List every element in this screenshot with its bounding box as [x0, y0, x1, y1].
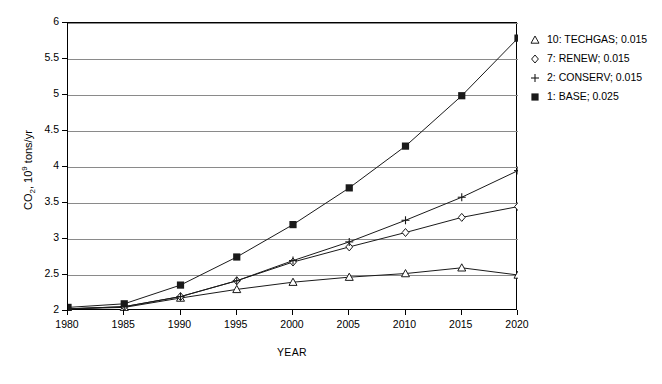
- triangle-open-icon: [528, 30, 542, 49]
- series-techgas: [68, 264, 518, 311]
- legend-label: 2: CONSERV; 0.015: [547, 71, 642, 83]
- x-tick-label: 1995: [211, 318, 261, 330]
- data-point-plus: [514, 167, 518, 175]
- data-point-square-filled: [346, 184, 353, 191]
- y-axis-label: CO2, 109 tons/yr: [20, 130, 37, 210]
- x-tick-mark: [461, 310, 462, 315]
- x-tick-mark: [405, 310, 406, 315]
- x-tick-label: 1980: [42, 318, 92, 330]
- y-tick-label: 5.5: [21, 51, 59, 63]
- data-point-plus: [233, 277, 241, 285]
- y-tick-mark: [62, 94, 67, 95]
- y-tick-mark: [62, 130, 67, 131]
- data-point-diamond-open: [515, 203, 518, 211]
- y-tick-mark: [62, 238, 67, 239]
- y-tick-label: 3: [21, 231, 59, 243]
- x-tick-label: 2015: [436, 318, 486, 330]
- plot-area: [67, 22, 517, 310]
- data-point-plus: [458, 193, 466, 201]
- x-tick-label: 2000: [267, 318, 317, 330]
- data-point-square-filled: [177, 281, 184, 288]
- plus-icon: [528, 68, 542, 87]
- x-tick-mark: [123, 310, 124, 315]
- data-point-square-filled: [402, 143, 409, 150]
- x-tick-mark: [67, 310, 68, 315]
- y-tick-label: 2.5: [21, 267, 59, 279]
- series-base: [68, 35, 518, 311]
- data-point-plus: [345, 238, 353, 246]
- data-point-plus: [531, 74, 539, 82]
- x-tick-label: 2020: [492, 318, 542, 330]
- data-point-diamond-open: [458, 213, 465, 221]
- y-tick-mark: [62, 202, 67, 203]
- legend-label: 10: TECHGAS; 0.015: [547, 33, 647, 45]
- chart-container: 22.533.544.555.56 1980198519901995200020…: [0, 0, 662, 384]
- data-point-square-filled: [531, 93, 538, 100]
- diamond-open-icon: [528, 49, 542, 68]
- y-tick-mark: [62, 22, 67, 23]
- series-conserv: [68, 167, 518, 311]
- legend-label: 7: RENEW; 0.015: [547, 52, 630, 64]
- data-point-triangle-open: [458, 264, 466, 271]
- legend-label: 1: BASE; 0.025: [547, 90, 619, 102]
- x-tick-mark: [517, 310, 518, 315]
- data-point-square-filled: [458, 92, 465, 99]
- data-point-square-filled: [233, 253, 240, 260]
- x-tick-mark: [292, 310, 293, 315]
- x-tick-label: 2010: [380, 318, 430, 330]
- data-point-triangle-open: [531, 36, 539, 43]
- y-tick-label: 2: [21, 303, 59, 315]
- data-point-square-filled: [121, 300, 128, 307]
- data-point-square-filled: [514, 35, 518, 42]
- data-point-plus: [402, 216, 410, 224]
- square-filled-icon: [528, 87, 542, 106]
- y-tick-mark: [62, 166, 67, 167]
- data-series-layer: [68, 23, 518, 311]
- data-point-square-filled: [68, 304, 72, 311]
- x-tick-mark: [236, 310, 237, 315]
- x-tick-label: 1985: [98, 318, 148, 330]
- data-point-diamond-open: [402, 229, 409, 237]
- y-tick-mark: [62, 274, 67, 275]
- y-tick-mark: [62, 58, 67, 59]
- x-tick-label: 2005: [323, 318, 373, 330]
- x-tick-mark: [348, 310, 349, 315]
- data-point-diamond-open: [532, 55, 539, 63]
- x-tick-mark: [180, 310, 181, 315]
- data-point-square-filled: [289, 221, 296, 228]
- x-axis-label: YEAR: [262, 346, 322, 358]
- y-tick-label: 6: [21, 15, 59, 27]
- x-tick-label: 1990: [155, 318, 205, 330]
- y-tick-label: 5: [21, 87, 59, 99]
